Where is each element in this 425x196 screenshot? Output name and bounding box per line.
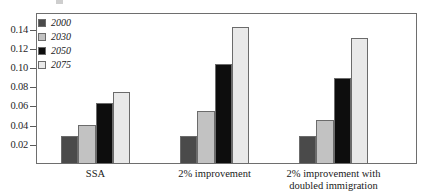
legend-item-label: 2075 — [51, 60, 71, 70]
chart-legend: 2000203020502075 — [38, 16, 71, 72]
y-axis-tick-label: 0.08 — [0, 82, 28, 93]
top-edge-artifact — [56, 0, 63, 4]
bar — [351, 38, 368, 164]
bar — [113, 92, 130, 164]
y-axis-tick — [30, 145, 36, 146]
y-axis-tick-label: 0.14 — [0, 25, 28, 36]
y-axis-tick — [30, 68, 36, 69]
bar — [316, 120, 333, 164]
bar — [61, 136, 78, 164]
legend-item-label: 2030 — [51, 32, 71, 42]
legend-item: 2050 — [38, 44, 71, 58]
y-axis-tick-label: 0.02 — [0, 140, 28, 151]
bar — [232, 27, 249, 164]
x-axis-category-label-line: 2% improvement with — [254, 168, 414, 180]
y-axis-tick — [30, 49, 36, 50]
legend-swatch-icon — [38, 19, 46, 27]
y-axis-tick-label: 0.12 — [0, 44, 28, 55]
legend-item: 2000 — [38, 16, 71, 30]
x-axis-category-label-line: doubled immigration — [254, 180, 414, 192]
bar — [78, 125, 95, 164]
bar — [215, 64, 232, 164]
y-axis-tick — [30, 106, 36, 107]
bar — [299, 136, 316, 164]
legend-item-label: 2000 — [51, 18, 71, 28]
legend-swatch-icon — [38, 47, 46, 55]
plot-area — [37, 14, 416, 164]
bar — [334, 78, 351, 164]
y-axis-tick — [30, 87, 36, 88]
x-axis-category-label: 2% improvement withdoubled immigration — [254, 168, 414, 191]
y-axis-tick — [30, 30, 36, 31]
legend-swatch-icon — [38, 61, 46, 69]
y-axis-tick-label: 0.10 — [0, 63, 28, 74]
legend-item-label: 2050 — [51, 46, 71, 56]
bar-chart: 0.020.040.060.080.100.120.14 SSA2% impro… — [0, 0, 425, 196]
bar — [180, 136, 197, 164]
bar — [197, 111, 214, 164]
legend-swatch-icon — [38, 33, 46, 41]
bar — [96, 103, 113, 164]
y-axis-tick-label: 0.04 — [0, 121, 28, 132]
legend-item: 2030 — [38, 30, 71, 44]
y-axis-tick — [30, 126, 36, 127]
legend-item: 2075 — [38, 58, 71, 72]
y-axis-tick-label: 0.06 — [0, 101, 28, 112]
